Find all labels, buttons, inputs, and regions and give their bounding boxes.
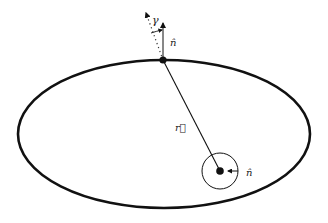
normal-label-center: n̂ [246,167,252,178]
orbit-ellipse [18,60,310,208]
radius-vector-line [163,60,220,171]
central-body-dot [216,167,224,175]
gamma-label: γ [152,14,159,27]
normal-label-top: n̂ [170,37,176,48]
radius-vector-label: r⃗ [175,122,186,133]
orbiting-body-dot [159,56,166,63]
orbit-diagram: γ n̂ r⃗ n̂ [0,0,328,223]
